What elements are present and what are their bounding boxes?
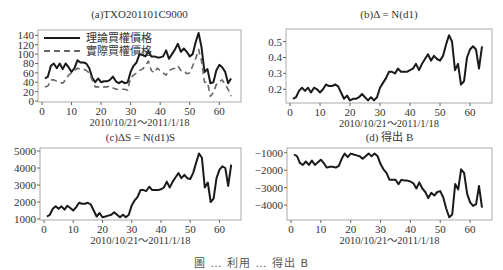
y-tick-label: 0.3	[268, 67, 282, 79]
plot-frame	[40, 148, 241, 220]
x-tick-label: 30	[375, 106, 387, 118]
x-tick-label: 0	[287, 106, 293, 118]
figure-caption: 圖 … 利用 … 得出 B	[0, 254, 503, 270]
chart-c-svg: (c)ΔS = N(d1)S01020304050602010/10/21～20…	[0, 128, 251, 246]
x-tick-label: 0	[288, 223, 294, 235]
x-tick-label: 30	[125, 105, 137, 117]
chart-title: (c)ΔS = N(d1)S	[106, 131, 176, 144]
x-tick-label: 40	[155, 105, 167, 117]
x-tick-label: 40	[155, 223, 167, 235]
y-tick-label: 4000	[14, 162, 37, 174]
chart-title: (a)TXO201101C9000	[91, 8, 188, 21]
x-tick-label: 40	[405, 106, 417, 118]
x-tick-label: 30	[126, 223, 138, 235]
chart-panel-b: (b)Δ = N(d1)01020304050602010/10/21～2011…	[251, 0, 503, 128]
x-tick-label: 10	[315, 223, 327, 235]
x-tick-label: 60	[214, 223, 226, 235]
x-tick-label: 20	[345, 106, 357, 118]
y-tick-label: 0.4	[268, 51, 282, 63]
x-tick-label: 50	[185, 223, 197, 235]
x-tick-label: 0	[39, 105, 45, 117]
y-tick-label: 140	[18, 29, 35, 41]
series-line	[293, 35, 482, 100]
chart-title: (d) 得出 B	[366, 130, 414, 144]
chart-panel-d: (d) 得出 B01020304050602010/10/21～2011/1/1…	[251, 128, 503, 246]
y-tick-label: 5000	[14, 145, 37, 157]
x-tick-label: 30	[375, 223, 387, 235]
x-tick-label: 10	[68, 223, 80, 235]
y-tick-label: 3000	[14, 179, 37, 191]
plot-frame	[286, 29, 492, 103]
series-line	[294, 154, 482, 218]
chart-panel-a: (a)TXO201101C900001020304050602010/10/21…	[0, 0, 251, 128]
chart-a-svg: (a)TXO201101C900001020304050602010/10/21…	[0, 0, 251, 128]
chart-d-svg: (d) 得出 B01020304050602010/10/21～2011/1/1…	[251, 128, 503, 246]
chart-title: (b)Δ = N(d1)	[360, 8, 418, 21]
x-axis-label: 2010/10/21～2011/1/18	[90, 235, 190, 246]
x-tick-label: 60	[465, 223, 477, 235]
x-axis-label: 2010/10/21～2011/1/18	[89, 117, 189, 128]
y-tick-label: −3000	[255, 182, 284, 194]
series-line	[47, 154, 231, 218]
x-tick-label: 20	[96, 105, 108, 117]
y-tick-label: 0.2	[268, 83, 282, 95]
y-tick-label: −2000	[255, 164, 284, 176]
y-tick-label: 2000	[14, 196, 37, 208]
y-tick-label: −4000	[255, 199, 284, 211]
y-tick-label: 1000	[14, 213, 37, 225]
x-axis-label: 2010/10/21～2011/1/18	[339, 118, 439, 128]
x-tick-label: 60	[465, 106, 477, 118]
x-tick-label: 20	[97, 223, 109, 235]
y-tick-label: −1000	[255, 147, 284, 159]
x-tick-label: 60	[214, 105, 226, 117]
chart-panel-c: (c)ΔS = N(d1)S01020304050602010/10/21～20…	[0, 128, 251, 246]
x-tick-label: 50	[184, 105, 196, 117]
x-tick-label: 10	[66, 105, 78, 117]
x-tick-label: 20	[345, 223, 357, 235]
x-tick-label: 40	[405, 223, 417, 235]
plot-frame	[287, 148, 492, 220]
x-tick-label: 50	[435, 106, 447, 118]
legend-label: 理論買權價格	[86, 31, 152, 45]
x-tick-label: 10	[315, 106, 327, 118]
y-tick-label: 0.5	[268, 36, 282, 48]
legend-label: 實際買權價格	[86, 44, 152, 58]
x-axis-label: 2010/10/21～2011/1/18	[339, 235, 439, 246]
x-tick-label: 50	[435, 223, 447, 235]
chart-b-svg: (b)Δ = N(d1)01020304050602010/10/21～2011…	[251, 0, 503, 128]
x-tick-label: 0	[41, 223, 47, 235]
